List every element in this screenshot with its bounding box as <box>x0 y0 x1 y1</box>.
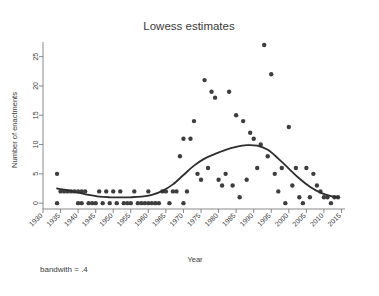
scatter-point <box>241 119 245 123</box>
y-axis: 0510152025 <box>32 42 43 209</box>
y-tick-group: 0510152025 <box>32 53 43 205</box>
x-tick-label: 1960 <box>133 212 149 228</box>
x-tick-label: 1965 <box>151 212 167 228</box>
x-tick-label: 2015 <box>326 212 342 228</box>
scatter-point <box>223 172 227 176</box>
x-tick-label: 1935 <box>45 212 61 228</box>
scatter-point <box>181 201 185 205</box>
scatter-point <box>157 201 161 205</box>
scatter-point <box>237 195 241 199</box>
y-tick-label: 5 <box>32 172 39 176</box>
scatter-point <box>283 201 287 205</box>
scatter-point <box>188 136 192 140</box>
scatter-point <box>276 189 280 193</box>
y-tick-label: 20 <box>32 82 39 90</box>
scatter-point <box>273 172 277 176</box>
chart-figure: Lowess estimates Number of enactments Ye… <box>0 0 379 296</box>
x-tick-label: 1995 <box>256 212 272 228</box>
y-tick-label: 10 <box>32 141 39 149</box>
scatter-point <box>199 178 203 182</box>
scatter-point <box>244 178 248 182</box>
x-tick-label: 1980 <box>203 212 219 228</box>
x-tick-label: 1990 <box>238 212 254 228</box>
chart-title: Lowess estimates <box>143 20 235 32</box>
scatter-point <box>132 189 136 193</box>
x-tick-label: 2005 <box>291 212 307 228</box>
x-tick-label: 1930 <box>28 212 44 228</box>
scatter-point <box>115 201 119 205</box>
scatter-point <box>146 189 150 193</box>
x-tick-label: 1970 <box>168 212 184 228</box>
y-tick-label: 0 <box>32 201 39 205</box>
scatter-point <box>118 189 122 193</box>
scatter-point <box>301 201 305 205</box>
bandwidth-note: bandwith = .4 <box>40 265 88 274</box>
x-tick-label: 1950 <box>98 212 114 228</box>
scatter-point <box>104 189 108 193</box>
scatter-point <box>248 131 252 135</box>
x-tick-label: 1940 <box>63 212 79 228</box>
scatter-point <box>308 195 312 199</box>
scatter-point <box>216 178 220 182</box>
scatter-point <box>315 183 319 187</box>
scatter-point <box>255 166 259 170</box>
x-tick-label: 1985 <box>221 212 237 228</box>
scatter-point <box>262 43 266 47</box>
scatter-point <box>304 166 308 170</box>
x-tick-label: 1945 <box>80 212 96 228</box>
scatter-point <box>55 172 59 176</box>
scatter-point <box>192 119 196 123</box>
x-tick-group: 1930193519401945195019551960196519701975… <box>28 209 343 228</box>
scatter-point <box>311 172 315 176</box>
x-tick-label: 1975 <box>186 212 202 228</box>
scatter-point <box>266 154 270 158</box>
scatter-point <box>234 113 238 117</box>
scatter-point <box>227 90 231 94</box>
scatter-point <box>55 201 59 205</box>
scatter-point <box>100 201 104 205</box>
x-tick-label: 2010 <box>309 212 325 228</box>
x-axis: 1930193519401945195019551960196519701975… <box>28 209 345 228</box>
scatter-point <box>290 183 294 187</box>
scatter-point <box>297 195 301 199</box>
x-axis-title: Year <box>187 255 203 264</box>
scatter-point <box>195 172 199 176</box>
scatter-point <box>79 201 83 205</box>
scatter-point <box>129 201 133 205</box>
scatter-point <box>213 95 217 99</box>
scatter-point <box>230 183 234 187</box>
scatter-point <box>111 189 115 193</box>
scatter-point <box>97 189 101 193</box>
scatter-point <box>220 183 224 187</box>
scatter-point <box>209 90 213 94</box>
scatter-point <box>178 154 182 158</box>
x-tick-label: 1955 <box>116 212 132 228</box>
scatter-point <box>174 189 178 193</box>
x-tick-label: 2000 <box>274 212 290 228</box>
scatter-point <box>202 78 206 82</box>
scatter-point <box>185 189 189 193</box>
scatter-point <box>206 166 210 170</box>
scatter-point <box>329 201 333 205</box>
scatter-point <box>294 166 298 170</box>
y-axis-title: Number of enactments <box>10 92 19 168</box>
scatter-point <box>167 201 171 205</box>
scatter-point <box>269 72 273 76</box>
scatter-point <box>280 166 284 170</box>
scatter-point <box>93 201 97 205</box>
scatter-point <box>251 136 255 140</box>
lowess-scatter-chart: Lowess estimates Number of enactments Ye… <box>0 0 379 296</box>
y-tick-label: 25 <box>32 53 39 61</box>
scatter-point <box>181 136 185 140</box>
y-tick-label: 15 <box>32 111 39 119</box>
scatter-points-layer <box>55 43 340 206</box>
scatter-point <box>287 125 291 129</box>
scatter-point <box>108 201 112 205</box>
